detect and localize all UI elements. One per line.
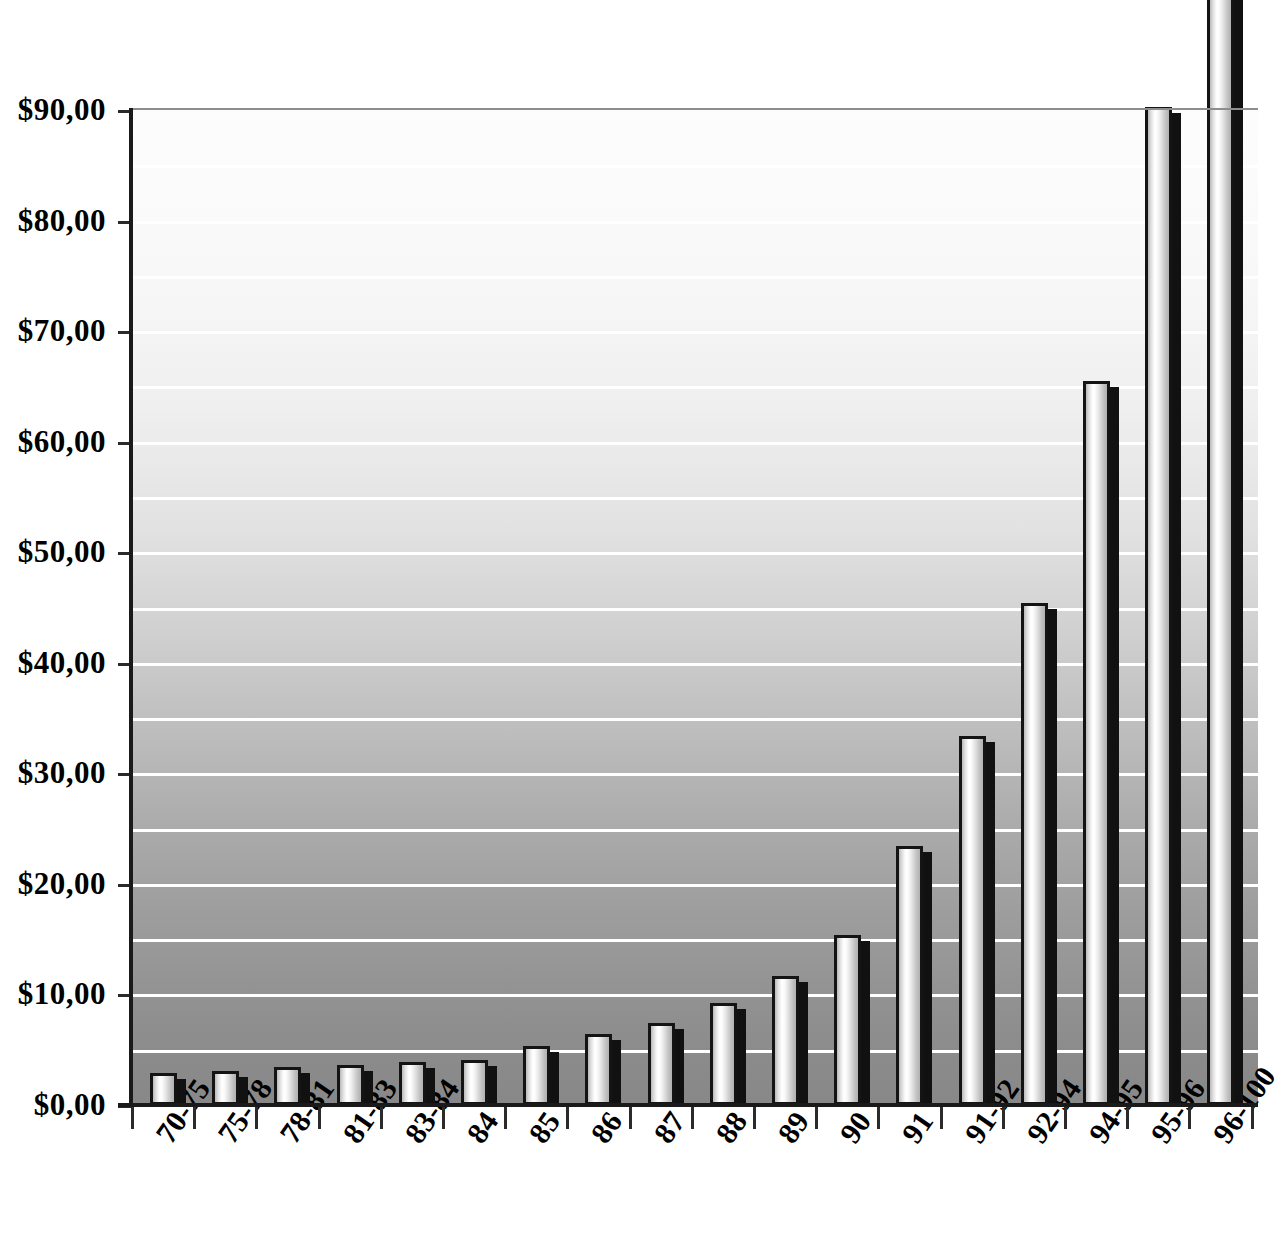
x-axis-tick-mark <box>1251 1107 1254 1129</box>
y-axis-tick-label: $0,00 <box>0 1087 106 1123</box>
bar-shadow <box>923 852 932 1105</box>
bar-shadow <box>426 1068 435 1105</box>
x-axis-line <box>118 1103 1258 1107</box>
x-axis-tick-mark <box>380 1107 383 1129</box>
y-axis: $90,00$80,00$70,00$60,00$50,00$40,00$30,… <box>0 0 118 1237</box>
x-axis-tick-mark <box>1188 1107 1191 1129</box>
x-axis-tick-label: 90 <box>833 1105 878 1149</box>
bar[interactable] <box>337 1065 373 1105</box>
x-axis-tick-mark <box>1064 1107 1067 1129</box>
bar-body <box>959 736 986 1105</box>
x-axis-tick-label: 85 <box>522 1105 567 1149</box>
bar-body <box>212 1071 239 1105</box>
bar-shadow <box>488 1066 497 1105</box>
bar[interactable] <box>834 935 870 1105</box>
bar[interactable] <box>461 1060 497 1105</box>
bar-body <box>337 1065 364 1105</box>
y-axis-tick-label: $50,00 <box>0 534 106 570</box>
y-axis-tick-label: $90,00 <box>0 92 106 128</box>
y-axis-tick-label: $20,00 <box>0 866 106 902</box>
x-axis-tick-mark <box>318 1107 321 1129</box>
x-axis-tick-label: 88 <box>709 1105 754 1149</box>
x-axis-tick-mark <box>131 1107 134 1129</box>
bar-shadow <box>550 1052 559 1105</box>
x-axis-tick-label: 87 <box>647 1105 692 1149</box>
x-axis-tick-mark <box>193 1107 196 1129</box>
y-axis-tick-label: $80,00 <box>0 203 106 239</box>
x-axis-tick-mark <box>877 1107 880 1129</box>
y-axis-tick-label: $30,00 <box>0 755 106 791</box>
y-axis-line <box>129 108 133 1107</box>
bar-shadow <box>1110 387 1119 1105</box>
x-axis-tick-mark <box>504 1107 507 1129</box>
bar-body <box>399 1062 426 1105</box>
bar-body <box>1145 107 1172 1105</box>
x-axis-tick-mark <box>566 1107 569 1129</box>
bar-body <box>523 1046 550 1105</box>
x-axis-tick-mark <box>753 1107 756 1129</box>
x-axis-tick-mark <box>442 1107 445 1129</box>
bar-body <box>772 976 799 1105</box>
bar-shadow <box>301 1073 310 1105</box>
bar[interactable] <box>585 1034 621 1105</box>
bar-body <box>1083 381 1110 1105</box>
bar-body <box>896 846 923 1105</box>
bar[interactable] <box>896 846 932 1105</box>
bar[interactable] <box>212 1071 248 1105</box>
y-axis-tick-label: $70,00 <box>0 313 106 349</box>
bar-shadow <box>1234 0 1243 1105</box>
plot-area <box>131 110 1258 1105</box>
bar-shadow <box>364 1071 373 1105</box>
bar-shadow <box>239 1077 248 1105</box>
bar[interactable] <box>959 736 995 1105</box>
bar-body <box>585 1034 612 1105</box>
bar-body <box>710 1003 737 1105</box>
bar-body <box>1207 0 1234 1105</box>
x-axis-tick-mark <box>815 1107 818 1129</box>
bar-shadow <box>986 742 995 1105</box>
bar[interactable] <box>710 1003 746 1105</box>
x-axis-tick-mark <box>255 1107 258 1129</box>
bar[interactable] <box>399 1062 435 1105</box>
bar-shadow <box>1172 113 1181 1105</box>
bar[interactable] <box>150 1073 186 1105</box>
bar-body <box>461 1060 488 1105</box>
plot-top-border <box>131 108 1258 110</box>
y-axis-tick-label: $60,00 <box>0 424 106 460</box>
bar-body <box>150 1073 177 1105</box>
bar-body <box>274 1067 301 1105</box>
bar[interactable] <box>1207 0 1243 1105</box>
x-axis-tick-label: 91 <box>895 1105 940 1149</box>
bar-shadow <box>612 1040 621 1105</box>
bar-shadow <box>861 941 870 1105</box>
bar-body <box>648 1023 675 1105</box>
bar-shadow <box>177 1079 186 1105</box>
y-axis-tick-label: $40,00 <box>0 645 106 681</box>
x-axis-tick-mark <box>629 1107 632 1129</box>
bar-shadow <box>799 982 808 1105</box>
bar[interactable] <box>648 1023 684 1105</box>
y-axis-tick-label: $10,00 <box>0 976 106 1012</box>
bar-shadow <box>675 1029 684 1105</box>
bars-layer <box>131 110 1258 1105</box>
bar[interactable] <box>523 1046 559 1105</box>
bar-shadow <box>737 1009 746 1105</box>
x-axis-tick-mark <box>940 1107 943 1129</box>
bar[interactable] <box>1021 603 1057 1105</box>
x-axis-tick-mark <box>1002 1107 1005 1129</box>
bar-body <box>1021 603 1048 1105</box>
bar-shadow <box>1048 609 1057 1105</box>
x-axis-tick-mark <box>1126 1107 1129 1129</box>
x-axis-tick-label: 86 <box>584 1105 629 1149</box>
x-axis-tick-mark <box>691 1107 694 1129</box>
bar-body <box>834 935 861 1105</box>
x-axis-tick-label: 84 <box>460 1105 505 1149</box>
bar[interactable] <box>1083 381 1119 1105</box>
bar[interactable] <box>274 1067 310 1105</box>
x-axis-tick-label: 89 <box>771 1105 816 1149</box>
bar[interactable] <box>772 976 808 1105</box>
bar[interactable] <box>1145 107 1181 1105</box>
